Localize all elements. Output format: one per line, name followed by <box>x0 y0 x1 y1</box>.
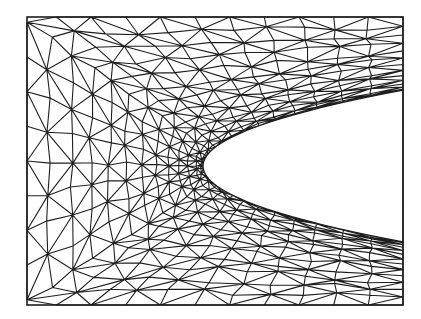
mesh-svg <box>0 0 421 319</box>
mesh-diagram <box>0 0 421 319</box>
parabolic-hole <box>203 90 403 242</box>
